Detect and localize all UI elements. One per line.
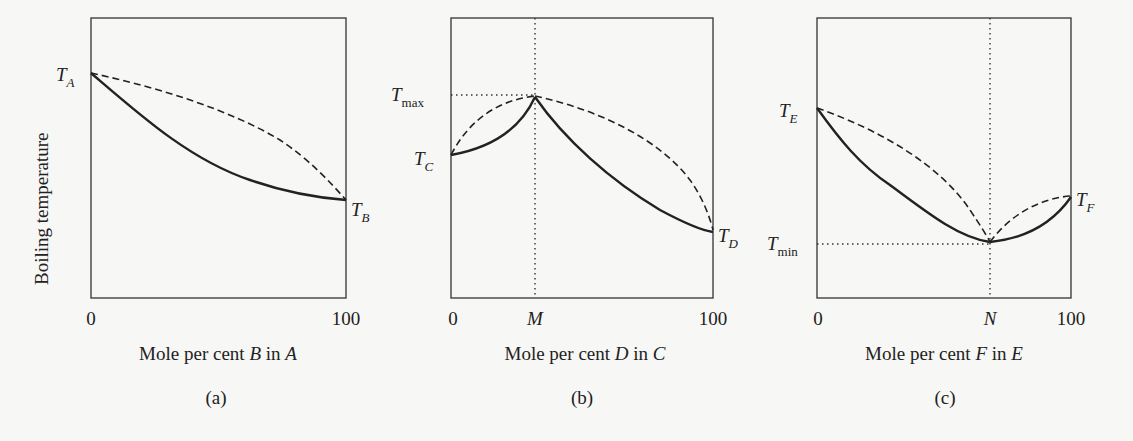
- panel-c: TE TF Tmin 0 N 100 Mole per cent F in E …: [767, 18, 1096, 409]
- panel-a: Boiling temperature TA TB 0 100 Mole per…: [31, 18, 370, 409]
- label-t-d: TD: [718, 225, 739, 251]
- liquid-curve-right: [535, 97, 713, 232]
- y-axis-label: Boiling temperature: [31, 133, 52, 285]
- liquid-curve-left: [451, 97, 535, 155]
- vapour-curve-left: [451, 96, 535, 155]
- plot-frame: [817, 18, 1071, 298]
- plot-frame: [451, 18, 713, 298]
- x-tick-0: 0: [448, 308, 458, 329]
- vapour-curve-right: [535, 96, 713, 230]
- x-axis-label: Mole per cent F in E: [865, 343, 1023, 364]
- vapour-curve: [91, 73, 346, 200]
- liquid-curve-right: [990, 197, 1071, 242]
- x-tick-100: 100: [332, 308, 361, 329]
- plot-frame: [91, 18, 346, 298]
- label-t-c: TC: [414, 148, 434, 174]
- x-tick-n: N: [983, 308, 998, 329]
- phase-diagram-figure: Boiling temperature TA TB 0 100 Mole per…: [0, 0, 1133, 441]
- liquid-curve: [91, 73, 346, 200]
- liquid-curve-left: [817, 108, 990, 242]
- caption-b: (b): [571, 387, 593, 409]
- caption-c: (c): [934, 387, 955, 409]
- x-tick-100: 100: [1057, 308, 1086, 329]
- x-axis-label: Mole per cent B in A: [139, 343, 297, 364]
- x-tick-m: M: [526, 308, 544, 329]
- label-t-e: TE: [779, 100, 798, 126]
- vapour-curve-right: [990, 196, 1071, 242]
- x-tick-0: 0: [86, 308, 96, 329]
- label-t-min: Tmin: [767, 233, 798, 259]
- label-t-f: TF: [1076, 189, 1096, 215]
- label-t-b: TB: [351, 199, 370, 225]
- x-tick-0: 0: [813, 308, 823, 329]
- vapour-curve-left: [817, 108, 990, 242]
- panel-b: Tmax TC TD 0 M 100 Mole per cent D in C …: [391, 18, 739, 409]
- x-tick-100: 100: [699, 308, 728, 329]
- caption-a: (a): [205, 387, 226, 409]
- x-axis-label: Mole per cent D in C: [505, 343, 666, 364]
- label-t-max: Tmax: [391, 84, 424, 110]
- label-t-a: TA: [56, 64, 75, 90]
